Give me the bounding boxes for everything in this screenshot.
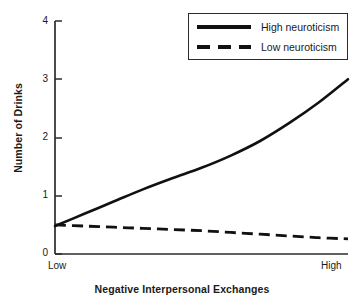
legend: High neuroticism Low neuroticism bbox=[188, 13, 348, 60]
series-line-low-neuroticism bbox=[55, 225, 348, 239]
legend-item-low-neuroticism: Low neuroticism bbox=[189, 38, 347, 56]
legend-swatch-dashed-icon bbox=[197, 45, 251, 49]
series-line-high-neuroticism bbox=[55, 79, 348, 226]
legend-swatch-solid-icon bbox=[197, 25, 251, 29]
legend-label-0: High neuroticism bbox=[261, 20, 339, 34]
chart-figure: Number of Drinks 0 1 2 3 4 Low High Nega… bbox=[0, 0, 364, 301]
y-axis-ticks bbox=[55, 21, 62, 254]
legend-label-1: Low neuroticism bbox=[261, 40, 337, 54]
legend-item-high-neuroticism: High neuroticism bbox=[189, 18, 347, 36]
